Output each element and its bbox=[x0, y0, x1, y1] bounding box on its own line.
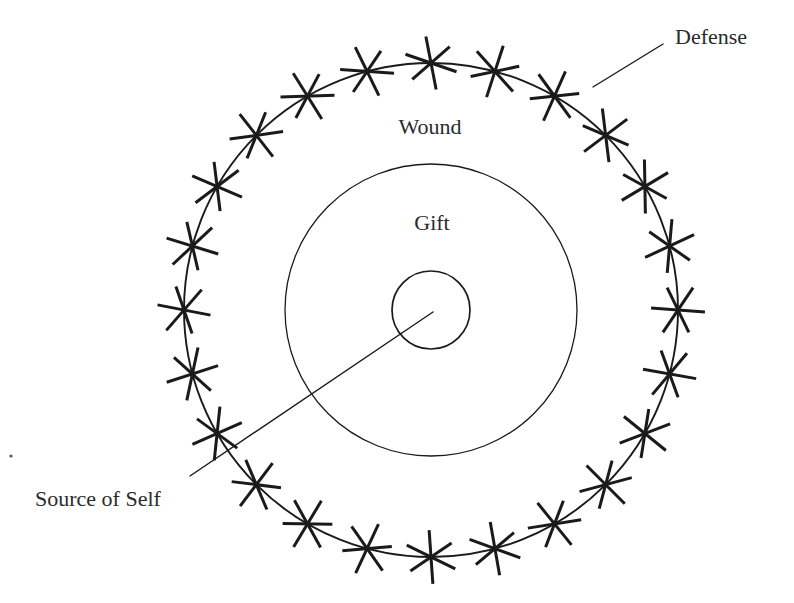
label-gift: Gift bbox=[414, 210, 449, 235]
defense-mark-stroke bbox=[281, 95, 335, 97]
label-source-of-self: Source of Self bbox=[35, 486, 162, 511]
label-wound: Wound bbox=[398, 114, 461, 139]
ink-speck bbox=[9, 454, 12, 457]
label-defense: Defense bbox=[675, 24, 747, 49]
concentric-circles-figure: Wound Gift Defense Source of Self bbox=[0, 0, 794, 603]
defense-mark-stroke bbox=[644, 160, 645, 214]
diagram-canvas: Wound Gift Defense Source of Self bbox=[0, 0, 794, 603]
